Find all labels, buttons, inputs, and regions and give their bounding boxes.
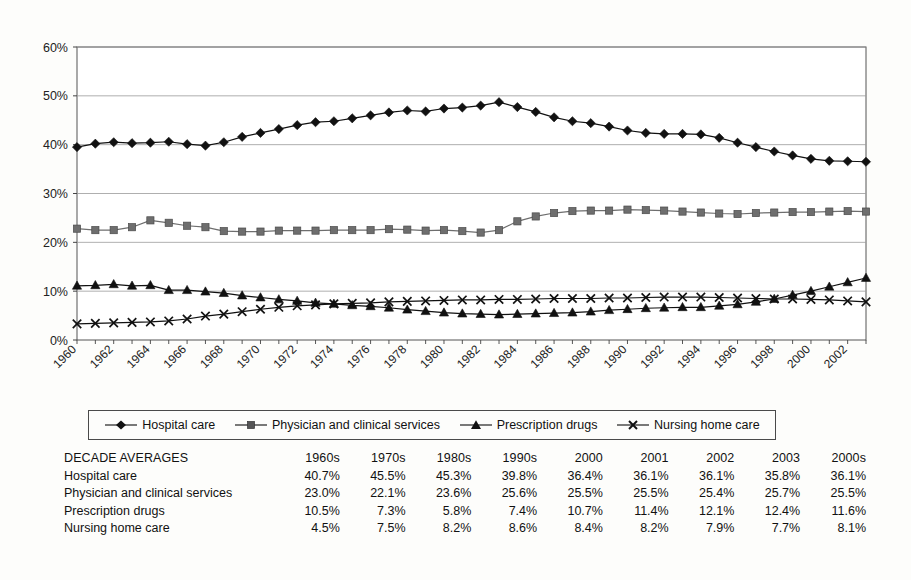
- marker-square: [165, 219, 172, 226]
- table-cell: 11.4%: [611, 503, 677, 521]
- table-cell: 25.6%: [479, 485, 545, 503]
- ytick-label: 30%: [43, 187, 68, 201]
- table-cell: 25.4%: [677, 485, 743, 503]
- xtick-label: 1962: [87, 342, 116, 371]
- table-column-header: 2003: [742, 450, 808, 468]
- marker-square: [807, 208, 814, 215]
- table-cell: 12.1%: [677, 503, 743, 521]
- legend-item[interactable]: Physician and clinical services: [234, 416, 440, 434]
- xtick-label: 1990: [601, 342, 630, 371]
- table-cell: 5.8%: [414, 503, 480, 521]
- marker-square: [239, 228, 246, 235]
- marker-square: [110, 227, 117, 234]
- line-chart-plot: 0%10%20%30%40%50%60%19601962196419661968…: [0, 0, 911, 410]
- marker-square: [477, 229, 484, 236]
- decade-averages-table: DECADE AVERAGES1960s1970s1980s1990s20002…: [64, 450, 874, 538]
- marker-square: [587, 207, 594, 214]
- legend-marker-triangle-icon: [459, 416, 493, 434]
- table-cell: 39.8%: [479, 468, 545, 486]
- marker-square: [862, 208, 869, 215]
- table-cell: 7.5%: [348, 520, 414, 538]
- table-cell: 8.2%: [611, 520, 677, 538]
- table-cell: 25.7%: [742, 485, 808, 503]
- xtick-label: 1976: [344, 342, 373, 371]
- marker-square: [752, 209, 759, 216]
- marker-square: [826, 208, 833, 215]
- table-row: Nursing home care4.5%7.5%8.2%8.6%8.4%8.2…: [64, 520, 874, 538]
- marker-square: [312, 227, 319, 234]
- marker-square: [128, 224, 135, 231]
- table-cell: 8.4%: [545, 520, 611, 538]
- table-column-header: 1970s: [348, 450, 414, 468]
- xtick-label: 1980: [417, 342, 446, 371]
- table-cell: 7.4%: [479, 503, 545, 521]
- table-row: Physician and clinical services23.0%22.1…: [64, 485, 874, 503]
- xtick-label: 2000: [784, 342, 813, 371]
- table-column-header: 1980s: [414, 450, 480, 468]
- xtick-label: 1970: [234, 342, 263, 371]
- ytick-label: 40%: [43, 138, 68, 152]
- marker-square: [844, 207, 851, 214]
- legend-item[interactable]: Hospital care: [104, 416, 215, 434]
- legend-item[interactable]: Prescription drugs: [459, 416, 598, 434]
- xtick-label: 1978: [381, 342, 410, 371]
- table-row-label: Hospital care: [64, 468, 282, 486]
- table-cell: 7.3%: [348, 503, 414, 521]
- table-cell: 12.4%: [742, 503, 808, 521]
- xtick-label: 1984: [491, 342, 520, 371]
- marker-square: [404, 226, 411, 233]
- table-cell: 10.5%: [282, 503, 348, 521]
- marker-square: [385, 226, 392, 233]
- xtick-label: 1972: [271, 342, 300, 371]
- legend-item-label: Nursing home care: [654, 418, 760, 432]
- marker-square: [697, 209, 704, 216]
- marker-square: [202, 224, 209, 231]
- legend-item[interactable]: Nursing home care: [616, 416, 760, 434]
- marker-square: [606, 207, 613, 214]
- table-column-header: 2002: [677, 450, 743, 468]
- marker-square: [330, 227, 337, 234]
- marker-square: [349, 227, 356, 234]
- table-cell: 8.1%: [808, 520, 874, 538]
- table-cell: 45.5%: [348, 468, 414, 486]
- marker-square: [73, 225, 80, 232]
- table-cell: 35.8%: [742, 468, 808, 486]
- marker-square: [422, 227, 429, 234]
- table-cell: 10.7%: [545, 503, 611, 521]
- table-cell: 7.9%: [677, 520, 743, 538]
- table-cell: 36.1%: [808, 468, 874, 486]
- marker-square: [92, 227, 99, 234]
- ytick-label: 50%: [43, 89, 68, 103]
- table-row: Prescription drugs10.5%7.3%5.8%7.4%10.7%…: [64, 503, 874, 521]
- table-cell: 40.7%: [282, 468, 348, 486]
- marker-square: [495, 227, 502, 234]
- table-header-row: DECADE AVERAGES1960s1970s1980s1990s20002…: [64, 450, 874, 468]
- marker-square: [532, 213, 539, 220]
- xtick-label: 1968: [197, 342, 226, 371]
- table-column-header: 2000: [545, 450, 611, 468]
- marker-square: [147, 217, 154, 224]
- table-cell: 23.6%: [414, 485, 480, 503]
- marker-square: [294, 227, 301, 234]
- table-cell: 25.5%: [808, 485, 874, 503]
- xtick-label: 1986: [527, 342, 556, 371]
- xtick-label: 1996: [711, 342, 740, 371]
- marker-square: [679, 208, 686, 215]
- marker-square: [275, 227, 282, 234]
- table-row-label: Nursing home care: [64, 520, 282, 538]
- marker-square: [183, 222, 190, 229]
- marker-square: [661, 207, 668, 214]
- legend-marker-x-icon: [616, 416, 650, 434]
- table-title: DECADE AVERAGES: [64, 450, 282, 468]
- marker-square: [459, 228, 466, 235]
- table-cell: 11.6%: [808, 503, 874, 521]
- table-cell: 36.1%: [677, 468, 743, 486]
- marker-square: [771, 209, 778, 216]
- marker-square: [440, 227, 447, 234]
- marker-square: [569, 207, 576, 214]
- xtick-label: 1964: [124, 342, 153, 371]
- table-cell: 36.4%: [545, 468, 611, 486]
- table-column-header: 1990s: [479, 450, 545, 468]
- xtick-label: 2002: [821, 342, 850, 371]
- table-cell: 8.2%: [414, 520, 480, 538]
